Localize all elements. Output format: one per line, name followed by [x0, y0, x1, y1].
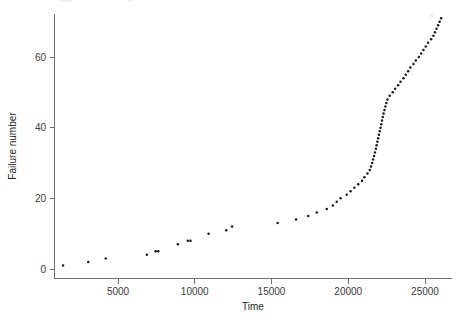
data-point [383, 109, 386, 112]
data-point [425, 45, 428, 48]
data-point [370, 165, 373, 168]
data-point [380, 123, 383, 126]
y-axis-ticks: 0204060 [35, 52, 55, 275]
top-edge-artifact [49, 0, 433, 17]
data-point [382, 116, 385, 119]
x-tick-label: 10000 [181, 286, 209, 297]
data-point [440, 17, 443, 20]
data-point [276, 222, 279, 225]
y-tick-label: 60 [35, 52, 47, 63]
y-tick-label: 40 [35, 122, 47, 133]
x-tick-label: 25000 [411, 286, 439, 297]
data-point [376, 141, 379, 144]
data-point [430, 38, 433, 41]
data-point [432, 35, 435, 38]
y-tick-label: 0 [40, 264, 46, 275]
data-points [62, 17, 443, 267]
data-point [335, 201, 338, 204]
data-point [357, 183, 360, 186]
data-point [368, 169, 371, 172]
data-point [177, 243, 180, 246]
data-point [409, 66, 412, 69]
data-point [295, 218, 298, 221]
data-point [363, 176, 366, 179]
data-point [375, 144, 378, 147]
data-point [154, 250, 157, 253]
data-point [332, 204, 335, 207]
data-point [189, 239, 192, 242]
data-point [146, 254, 149, 257]
data-point [434, 31, 437, 34]
data-point [378, 130, 381, 133]
data-point [399, 80, 402, 83]
data-point [374, 151, 377, 154]
data-point [420, 52, 423, 55]
data-point [187, 239, 190, 242]
data-point [388, 95, 391, 98]
scatter-plot: 0204060 500010000150002000025000 Time Fa… [0, 0, 461, 325]
data-point [418, 56, 421, 59]
data-point [394, 88, 397, 91]
x-tick-label: 20000 [334, 286, 362, 297]
data-point [381, 119, 384, 122]
data-point [438, 20, 441, 23]
data-point [422, 49, 425, 52]
data-point [345, 194, 348, 197]
data-point [437, 24, 440, 27]
y-axis-title: Failure number [7, 112, 18, 180]
data-point [415, 59, 418, 62]
data-point [353, 186, 356, 189]
data-point [397, 84, 400, 87]
x-tick-label: 5000 [107, 286, 130, 297]
data-point [372, 158, 375, 161]
x-tick-label: 15000 [258, 286, 286, 297]
data-point [207, 232, 210, 235]
data-point [427, 42, 430, 45]
x-axis-title: Time [242, 301, 264, 312]
data-point [435, 27, 438, 30]
data-point [62, 264, 65, 267]
data-point [157, 250, 160, 253]
data-point [377, 137, 380, 140]
data-point [339, 197, 342, 200]
data-point [371, 162, 374, 165]
data-point [366, 172, 369, 175]
data-point [231, 225, 234, 228]
data-point [412, 63, 415, 66]
data-point [375, 148, 378, 151]
data-point [349, 190, 352, 193]
data-point [307, 215, 310, 218]
data-point [379, 126, 382, 129]
data-point [402, 77, 405, 80]
data-point [405, 73, 408, 76]
data-point [361, 179, 364, 182]
chart-figure: 0204060 500010000150002000025000 Time Fa… [0, 0, 461, 325]
data-point [382, 112, 385, 115]
data-point [326, 208, 329, 211]
data-point [225, 229, 228, 232]
data-point [386, 98, 389, 101]
data-point [384, 105, 387, 108]
data-point [407, 70, 410, 73]
y-tick-label: 20 [35, 193, 47, 204]
data-point [316, 211, 319, 214]
data-point [378, 133, 381, 136]
data-point [385, 102, 388, 105]
data-point [104, 257, 107, 260]
x-axis-ticks: 500010000150002000025000 [107, 279, 439, 298]
data-point [392, 91, 395, 94]
data-point [373, 155, 376, 158]
data-point [87, 261, 90, 264]
